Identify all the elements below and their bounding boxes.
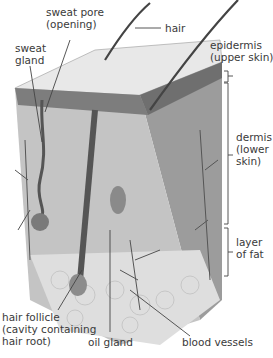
label-blood-vessels: blood vessels [182, 336, 253, 348]
label-sweat-gland: sweat gland [15, 42, 46, 66]
label-hair-follicle: hair follicle (cavity containing hair ro… [2, 311, 96, 347]
label-sweat-pore: sweat pore (opening) [46, 6, 104, 30]
label-layer-of-fat: layer of fat [236, 236, 264, 260]
label-hair: hair [165, 22, 185, 34]
label-dermis: dermis (lower skin) [236, 131, 272, 167]
label-epidermis: epidermis (upper skin) [210, 39, 273, 63]
label-oil-gland: oil gland [88, 336, 133, 348]
